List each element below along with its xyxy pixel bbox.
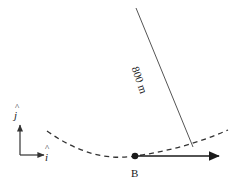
point-b-marker [132, 153, 139, 160]
point-b-label: B [131, 168, 138, 179]
physics-trajectory-figure: 800 m B ^ i ^ j [0, 0, 237, 186]
i-hat-axis-label: i [45, 152, 48, 163]
trajectory-parabola [47, 130, 228, 157]
j-hat-axis-label: j [14, 110, 17, 121]
figure-canvas [0, 0, 237, 186]
